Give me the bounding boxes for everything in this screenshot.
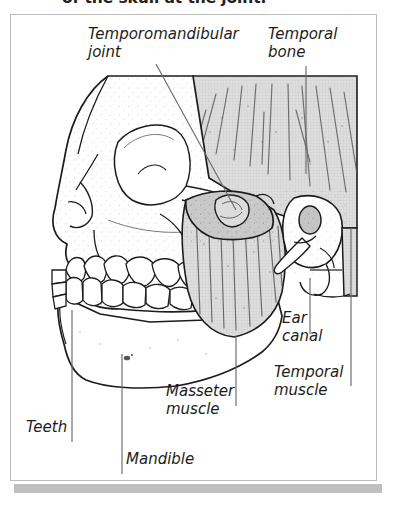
label-temporomandibular-joint: Temporomandibular joint xyxy=(88,26,239,61)
label-temporal-bone: Temporal bone xyxy=(268,26,337,61)
caption-strip: of the skull at the joint. xyxy=(0,0,393,11)
label-ear-canal: Ear canal xyxy=(282,310,322,345)
figure-page: of the skull at the joint. xyxy=(0,0,393,512)
label-masseter-muscle: Masseter muscle xyxy=(166,383,234,418)
ear-canal-region xyxy=(274,190,348,295)
label-temporal-muscle: Temporal muscle xyxy=(274,364,343,399)
label-teeth: Teeth xyxy=(26,419,67,437)
caption-text: of the skull at the joint. xyxy=(62,0,266,7)
label-mandible: Mandible xyxy=(126,451,194,469)
frame-shadow xyxy=(14,484,382,493)
